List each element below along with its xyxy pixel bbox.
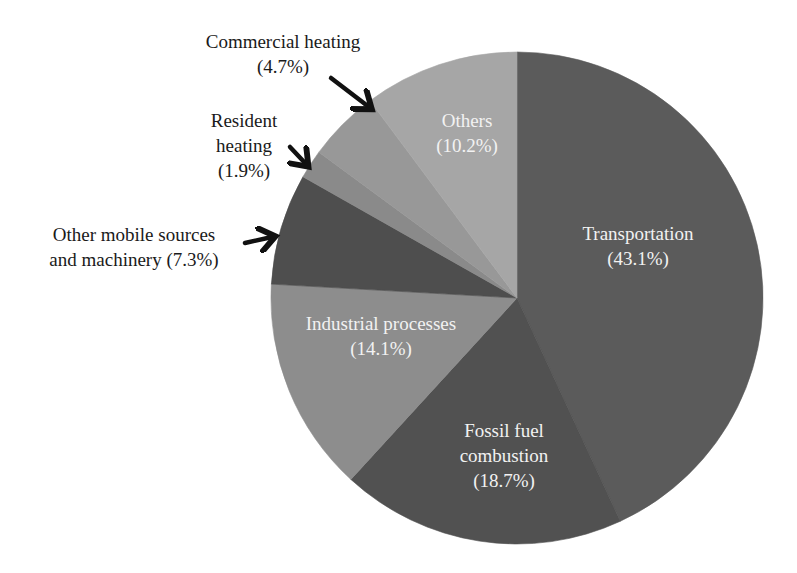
label-other-mobile-name: Other mobile sources <box>53 224 216 245</box>
label-commercial-heating: Commercial heating (4.7%) <box>206 31 361 78</box>
label-commercial-name: Commercial heating <box>206 31 361 52</box>
label-industrial-value: (14.1%) <box>350 338 412 360</box>
label-commercial-value: (4.7%) <box>257 56 309 78</box>
label-industrial-name: Industrial processes <box>306 313 456 334</box>
label-resident-value: (1.9%) <box>218 160 270 182</box>
label-fossil-fuel-name-2: combustion <box>460 445 549 466</box>
label-fossil-fuel-name-1: Fossil fuel <box>464 420 544 441</box>
arrow-icon-commercial <box>331 78 369 107</box>
arrow-icon-resident <box>290 147 306 164</box>
label-others-name: Others <box>442 110 493 131</box>
label-transportation-name: Transportation <box>582 223 694 244</box>
label-resident-name-1: Resident <box>211 110 278 131</box>
label-others-value: (10.2%) <box>436 135 498 157</box>
label-other-mobile-value: and machinery (7.3%) <box>49 249 218 271</box>
label-other-mobile: Other mobile sources and machinery (7.3%… <box>49 224 218 271</box>
label-resident-name-2: heating <box>216 135 272 156</box>
label-fossil-fuel-value: (18.7%) <box>473 470 535 492</box>
label-transportation-value: (43.1%) <box>607 248 669 270</box>
pie-chart-svg: Transportation (43.1%) Fossil fuel combu… <box>0 0 797 573</box>
arrow-icon-other-mobile <box>245 237 272 243</box>
pie-chart: Transportation (43.1%) Fossil fuel combu… <box>0 0 797 573</box>
label-resident-heating: Resident heating (1.9%) <box>211 110 278 182</box>
